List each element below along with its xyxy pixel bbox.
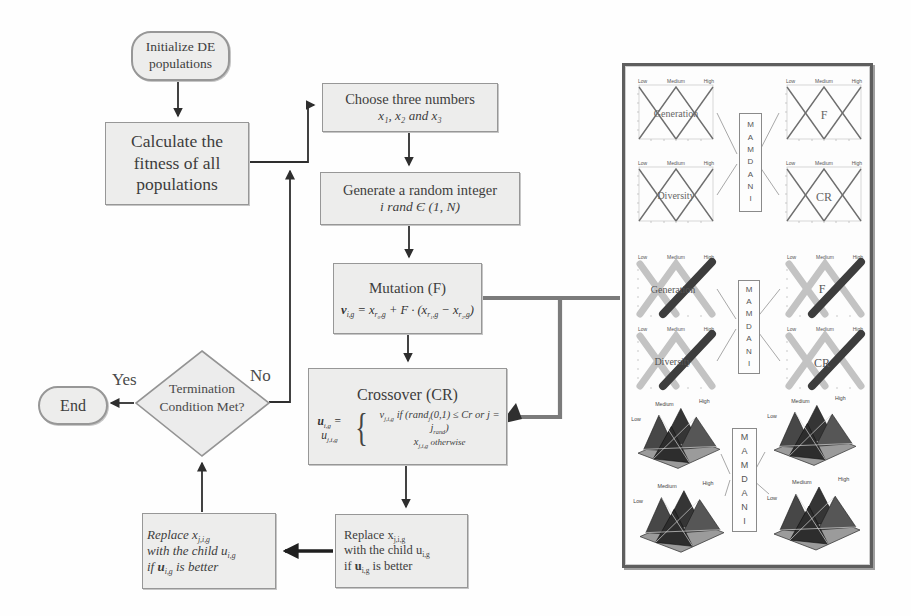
yes-label: Yes — [112, 370, 137, 390]
mf-high-label: High — [852, 78, 863, 84]
mf-low-label: Low — [638, 78, 648, 84]
node-fitness-line3: populations — [136, 174, 218, 196]
mf-plot-f-thick: Low Medium High F — [782, 253, 868, 325]
mf-medium-label: Medium — [667, 78, 685, 84]
mf-low-label: Low — [787, 254, 797, 260]
mf-plot-diversity-thick: Low Medium High Diversity — [633, 325, 719, 397]
mf-plot-cr-thin: Low Medium High CR — [781, 159, 867, 231]
mutation-f-2: = x — [354, 303, 374, 317]
replace-left-line2: with the child ui,g — [147, 543, 236, 559]
mf-cr-label: CR — [814, 356, 830, 370]
crossover-lhs-1: i,g — [324, 421, 331, 428]
crossover-case2: xj,i,g otherwise — [373, 435, 506, 448]
surface-high-label: High — [838, 476, 849, 482]
mf-high-label: High — [704, 78, 715, 84]
crossover-lhs: ui,g = uj,i,g — [309, 414, 350, 443]
cc1-6: ) — [445, 422, 449, 433]
arrow-no-loop — [269, 171, 290, 402]
rr2-0: with the child — [344, 543, 416, 557]
mf-medium-label: Medium — [815, 160, 833, 166]
arrow-fitness-to-choose — [247, 105, 314, 162]
decision-line1: Termination — [146, 380, 258, 398]
mf-high-label: High — [704, 160, 715, 166]
mamdani-box-2: M A M D A N I — [738, 280, 760, 374]
mf-plot-generation-thick: Low Medium High Generation — [633, 253, 719, 325]
node-generate: Generate a random integer i rand Є (1, N… — [320, 172, 520, 225]
node-generate-title: Generate a random integer — [343, 181, 497, 199]
mf-medium-label: Medium — [815, 78, 833, 84]
rl3-2: i,g — [165, 567, 173, 576]
mf-plot-diversity-thin: Low Medium High Diversity — [633, 159, 719, 231]
mf-generation-label: Generation — [654, 108, 698, 119]
node-crossover: Crossover (CR) ui,g = uj,i,g { vj,i,g if… — [308, 368, 507, 465]
mamdani-box-3: M A M D A N I — [732, 428, 757, 532]
node-mutation: Mutation (F) vi,g = xr₀,g + F · (xr₁,g −… — [333, 263, 482, 334]
node-fitness: Calculate the fitness of all populations — [105, 122, 249, 205]
rl1-0: Replace x — [147, 527, 198, 542]
replace-right-line3: if ui,g is better — [344, 559, 412, 575]
surface-plot-1: Low Medium High — [628, 396, 728, 476]
mf-plot-generation-thin: Low Medium High Generation — [633, 77, 719, 149]
surface-medium-label: Medium — [791, 398, 810, 404]
surface-plot-4: Low Medium High — [766, 474, 866, 558]
mf-low-label: Low — [638, 160, 648, 166]
surface-low-label: Low — [631, 416, 641, 422]
node-replace-left: Replace xj,i,g with the child ui,g if ui… — [142, 513, 276, 589]
mf-medium-label: Medium — [667, 160, 685, 166]
surface-plot-3: Low Medium High — [631, 478, 731, 560]
mf-plot-cr-thick: Low Medium High CR — [782, 325, 868, 397]
node-initialize: Initialize DE populations — [131, 31, 230, 81]
mutation-f-3: r₀,g — [375, 310, 386, 319]
node-initialize-line1: Initialize DE — [146, 39, 215, 56]
fuzzy-panel: Low Medium High Generation Low Medium Hi… — [622, 63, 873, 568]
rl2-2: i,g — [228, 551, 236, 560]
node-choose-title: Choose three numbers — [345, 90, 475, 108]
crossover-case1: vj,i,g if (randj(0,1) ≤ Cr or j = jrand) — [373, 408, 506, 434]
mf-diversity-label: Diversity — [654, 356, 691, 367]
surface-high-label: High — [702, 480, 713, 486]
rr3-3: is better — [369, 559, 412, 573]
mutation-f-7: r₂,g — [459, 310, 470, 319]
surface-medium-label: Medium — [655, 401, 674, 407]
mf-cr-label: CR — [816, 190, 832, 204]
cc2-2: otherwise — [428, 437, 465, 447]
rl2-0: with the child — [147, 543, 221, 558]
surface-low-label: Low — [633, 498, 643, 504]
mf-high-label: High — [852, 160, 863, 166]
mf-diversity-label: Diversity — [657, 190, 694, 201]
node-initialize-line2: populations — [149, 56, 212, 73]
replace-left-line1: Replace xj,i,g — [147, 527, 210, 543]
rr2-2: i,g — [422, 550, 430, 559]
decision-line2: Condition Met? — [146, 398, 258, 416]
replace-right-line1: Replace xj,i,g — [344, 528, 405, 544]
surface-plot-2: Low Medium High — [764, 393, 864, 473]
rl3-3: is better — [173, 559, 219, 574]
mf-generation-label: Generation — [651, 284, 695, 295]
surface-low-label: Low — [767, 413, 777, 419]
crossover-brace: { — [355, 410, 367, 446]
no-label: No — [250, 366, 271, 386]
mf-low-label: Low — [786, 160, 796, 166]
mutation-f-8: ) — [470, 303, 474, 317]
replace-left-line3: if ui,g is better — [147, 559, 218, 575]
node-fitness-line1: Calculate the — [131, 131, 223, 153]
replace-right-line2: with the child ui,g — [344, 543, 430, 559]
surface-medium-label: Medium — [658, 483, 678, 489]
crossover-lhs-3: j,i,g — [327, 436, 338, 443]
cc2-1: j,i,g — [418, 442, 428, 449]
mutation-f-6: − x — [438, 303, 458, 317]
surface-high-label: High — [835, 395, 846, 401]
crossover-cases: vj,i,g if (randj(0,1) ≤ Cr or j = jrand)… — [373, 408, 506, 449]
node-choose-sub: x₁, x₂ and x₃ — [378, 108, 441, 124]
node-mutation-title: Mutation (F) — [369, 279, 446, 298]
node-end: End — [38, 386, 108, 425]
mf-plot-f-thin: Low Medium High F — [781, 77, 867, 149]
mf-low-label: Low — [786, 78, 796, 84]
node-mutation-formula: vi,g = xr₀,g + F · (xr₁,g − xr₂,g) — [341, 303, 474, 319]
node-decision-text: Termination Condition Met? — [146, 380, 258, 415]
mf-low-label: Low — [787, 326, 797, 332]
cc1-2: if (rand — [394, 409, 428, 420]
node-generate-sub: i rand Є (1, N) — [380, 199, 460, 216]
node-fitness-line2: fitness of all — [134, 153, 221, 175]
node-crossover-formula: ui,g = uj,i,g { vj,i,g if (randj(0,1) ≤ … — [309, 408, 506, 449]
